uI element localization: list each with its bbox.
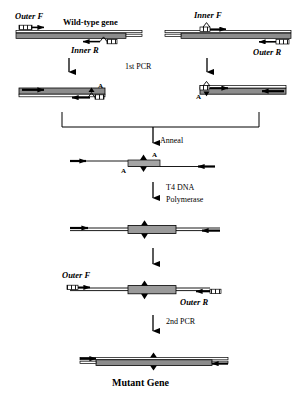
label-anneal: Anneal: [160, 137, 183, 145]
label-t4-dna: T4 DNA: [166, 184, 194, 192]
label-outer-f-bottom: Outer F: [62, 271, 90, 280]
label-inner-f: Inner F: [194, 11, 222, 20]
mutant-gene-product: [80, 352, 228, 370]
label-polymerase: Polymerase: [166, 196, 203, 204]
label-2nd-pcr: 2nd PCR: [166, 318, 195, 326]
mutagenesis-diagram: Outer F Wild-type gene Inner R Inner F O…: [0, 0, 307, 396]
label-1st-pcr: 1st PCR: [125, 63, 151, 71]
pcr-product-left: [19, 87, 105, 99]
label-wild-type-gene: Wild-type gene: [63, 18, 118, 27]
anneal-bracket: [62, 112, 259, 127]
label-outer-f-top: Outer F: [15, 12, 43, 21]
template-left: [16, 25, 142, 44]
annealed-duplex: [70, 155, 215, 172]
mutation-label-right: A: [196, 94, 201, 101]
label-outer-r-bottom: Outer R: [180, 298, 208, 307]
mutation-label-anneal-bottom: A: [121, 168, 126, 175]
filled-duplex: [70, 220, 220, 239]
label-mutant-gene: Mutant Gene: [112, 378, 169, 388]
label-inner-r: Inner R: [71, 46, 99, 55]
template-right: [165, 23, 291, 44]
diagram-canvas: [0, 0, 307, 396]
pcr-product-right: [200, 81, 286, 96]
label-outer-r-top: Outer R: [253, 48, 281, 57]
mutation-label-left: A: [98, 83, 103, 90]
mutation-label-anneal-top: A: [152, 152, 157, 159]
